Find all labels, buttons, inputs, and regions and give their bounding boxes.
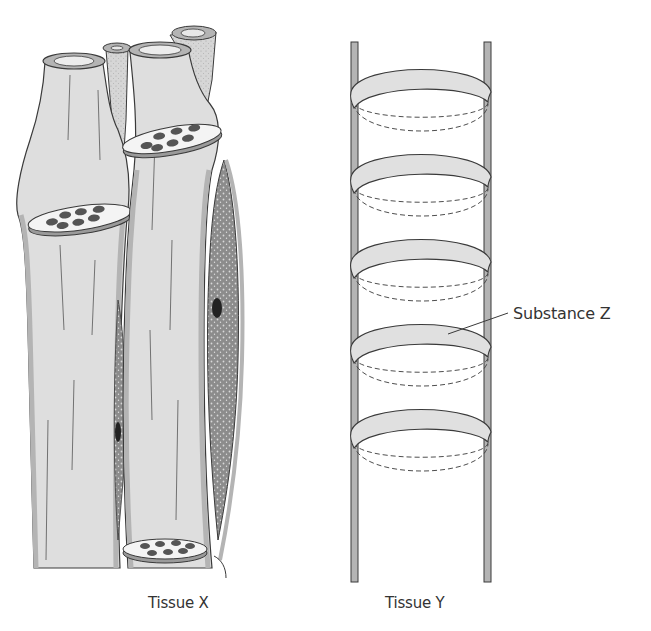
ring-2 <box>350 155 491 217</box>
vessel-wall-left <box>351 42 358 582</box>
ring-1 <box>350 70 491 132</box>
substance-z-leader-line <box>448 313 508 334</box>
fiber-cross-section-3 <box>123 539 207 563</box>
ring-3 <box>350 240 491 302</box>
ring-5 <box>350 410 491 472</box>
stippled-cell-right-large <box>207 160 242 578</box>
tissue-y-label: Tissue Y <box>385 594 445 612</box>
substance-z-label: Substance Z <box>513 304 611 323</box>
tissue-y-illustration <box>350 42 508 582</box>
ring-4-substance-z <box>350 325 491 387</box>
tissue-x-illustration <box>17 26 243 578</box>
tissue-x-label: Tissue X <box>148 594 209 612</box>
vessel-wall-right <box>484 42 491 582</box>
